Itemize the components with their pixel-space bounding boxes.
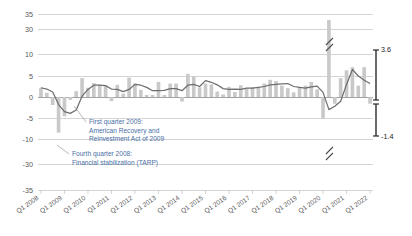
bar [174, 84, 178, 97]
bar [210, 84, 214, 97]
bar [309, 82, 313, 97]
bar [157, 82, 161, 97]
y-tick-label: -10 [23, 135, 33, 144]
bar [245, 89, 249, 97]
chart-root: 35301050-5-10-30-35 Q1 2008Q1 2009Q1 201… [0, 0, 412, 236]
y-tick-label: -30 [23, 160, 33, 169]
bar [63, 97, 67, 116]
bar [298, 88, 302, 97]
bar [362, 67, 366, 97]
bar [110, 97, 114, 101]
annotation-text-arra: Reinvestment Act of 2009 [89, 135, 164, 142]
bar [69, 97, 73, 100]
bar [215, 92, 219, 97]
bar [168, 84, 172, 97]
annotation-text-tarp: Financial stabilization (TARP) [72, 159, 158, 167]
bar [239, 85, 243, 97]
y-tick-label: -35 [23, 186, 33, 195]
bar [233, 92, 237, 97]
bar [51, 97, 55, 105]
bar [192, 76, 196, 97]
bar [116, 85, 120, 97]
gdp-quarterly-change-chart: 35301050-5-10-30-35 Q1 2008Q1 2009Q1 201… [0, 0, 412, 236]
annotation-text-arra: American Recovery and [89, 127, 160, 135]
bar [257, 88, 261, 97]
bar [327, 20, 331, 97]
bar [127, 78, 131, 97]
bar [204, 84, 208, 97]
bar [274, 81, 278, 97]
bar [139, 90, 143, 97]
bar [333, 97, 337, 104]
bar [45, 93, 49, 97]
bar [368, 97, 372, 104]
bar [198, 87, 202, 97]
bar [104, 86, 108, 97]
annotation-text-arra: First quarter 2009: [89, 118, 143, 126]
bar [339, 78, 343, 97]
bar [356, 86, 360, 97]
bar [227, 87, 231, 97]
bar [163, 95, 167, 97]
bar [74, 91, 78, 97]
bar [268, 80, 272, 97]
y-tick-label: 5 [29, 72, 33, 81]
bar [321, 97, 325, 118]
bar [145, 95, 149, 97]
bar [98, 85, 102, 97]
bar [180, 97, 184, 102]
bar [292, 92, 296, 97]
annotation-text-tarp: Fourth quarter 2008: [72, 150, 132, 158]
bar [286, 88, 290, 97]
bar [315, 89, 319, 97]
bar [121, 94, 125, 97]
y-tick-label: -5 [27, 114, 33, 123]
y-tick-label: 0 [29, 93, 33, 102]
upper-end-value-label: 3.6 [381, 45, 391, 54]
bar [39, 88, 43, 97]
bar [221, 94, 225, 97]
bar [280, 86, 284, 97]
y-tick-label: 10 [25, 50, 33, 59]
lower-end-value-label: -1.4 [381, 132, 393, 141]
bar [151, 95, 155, 97]
y-tick-label: 35 [25, 10, 33, 19]
y-tick-label: 30 [25, 25, 33, 34]
